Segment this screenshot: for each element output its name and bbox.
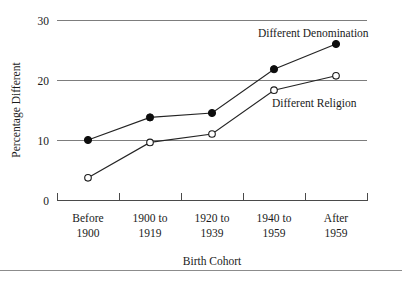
ytick-label-30: 30: [38, 15, 50, 27]
xtick-label-4-line1: After: [324, 212, 348, 224]
series-label-religion: Different Religion: [272, 97, 357, 110]
bottom-divider: [0, 270, 402, 271]
xtick-label-0-line1: Before: [72, 212, 103, 224]
xtick-label-1-line1: 1900 to: [133, 212, 168, 224]
data-point-denomination-0: [84, 136, 91, 143]
data-point-denomination-1: [146, 114, 153, 121]
xtick-label-3-line2: 1959: [263, 227, 286, 239]
series-different-denomination: [84, 40, 339, 143]
chart-figure: 30 20 10 0 Before 1900 1900 to 1919 1920…: [0, 0, 402, 285]
y-axis-tick-labels: 30 20 10 0: [38, 15, 50, 207]
data-point-religion-3: [271, 87, 278, 94]
xtick-label-2-line2: 1939: [201, 227, 224, 239]
data-point-denomination-2: [208, 109, 215, 116]
data-point-religion-0: [85, 175, 92, 182]
data-point-religion-1: [147, 139, 154, 146]
x-axis-line: [58, 193, 368, 201]
x-axis: [58, 193, 368, 201]
xtick-label-0-line2: 1900: [77, 227, 100, 239]
ytick-label-0: 0: [43, 195, 49, 207]
ytick-label-10: 10: [38, 135, 50, 147]
x-axis-tick-labels: Before 1900 1900 to 1919 1920 to 1939 19…: [72, 212, 348, 239]
series-label-denomination: Different Denomination: [258, 27, 369, 39]
xtick-label-1-line2: 1919: [139, 227, 162, 239]
data-point-denomination-3: [270, 66, 277, 73]
xtick-label-3-line1: 1940 to: [257, 212, 292, 224]
data-point-religion-4: [333, 73, 340, 80]
data-point-religion-2: [209, 131, 216, 138]
xtick-label-4-line2: 1959: [325, 227, 348, 239]
series-line-denomination: [88, 44, 336, 140]
xtick-label-2-line1: 1920 to: [195, 212, 230, 224]
y-axis-title: Percentage Different: [10, 62, 23, 158]
x-axis-title: Birth Cohort: [183, 255, 242, 267]
line-chart: 30 20 10 0 Before 1900 1900 to 1919 1920…: [0, 0, 402, 285]
data-point-denomination-4: [332, 40, 339, 47]
ytick-label-20: 20: [38, 75, 50, 87]
